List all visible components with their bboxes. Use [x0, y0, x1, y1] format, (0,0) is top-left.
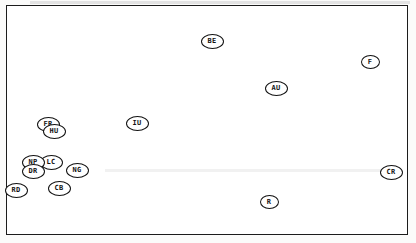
scan-artifact-top	[30, 1, 410, 4]
point-r: R	[260, 195, 279, 209]
point-cr: CR	[380, 165, 403, 180]
point-cb: CB	[48, 181, 71, 196]
point-au: AU	[265, 81, 288, 96]
point-dr: DR	[22, 164, 45, 179]
point-f: F	[361, 55, 380, 69]
point-rd: RD	[5, 183, 28, 198]
point-ng: NG	[66, 163, 89, 178]
point-iu: IU	[126, 116, 149, 131]
point-be: BE	[201, 34, 224, 49]
mds-scatter-plot: BEFAUIUFRHULCNPDRNGRDCBCRR	[0, 0, 416, 243]
scan-artifact-streak	[105, 169, 400, 172]
point-hu: HU	[43, 124, 66, 139]
